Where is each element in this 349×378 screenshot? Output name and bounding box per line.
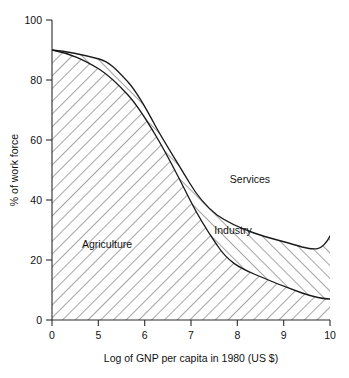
chart-figure: 100 80 60 40 20 0 0 5 6 7 8 9 10 Log of … xyxy=(0,0,349,378)
services-label: Services xyxy=(230,173,270,185)
y-tick-label-100: 100 xyxy=(24,14,42,26)
y-tick-label-80: 80 xyxy=(30,74,42,86)
industry-label: Industry xyxy=(214,224,252,236)
x-tick-label-10: 10 xyxy=(324,329,336,341)
y-tick-label-40: 40 xyxy=(30,194,42,206)
work-force-area-chart: 100 80 60 40 20 0 0 5 6 7 8 9 10 Log of … xyxy=(0,0,349,378)
x-tick-label-5: 5 xyxy=(95,329,101,341)
y-tick-label-0: 0 xyxy=(36,314,42,326)
y-tick-label-60: 60 xyxy=(30,134,42,146)
x-axis-title: Log of GNP per capita in 1980 (US $) xyxy=(104,352,278,364)
x-tick-label-8: 8 xyxy=(234,329,240,341)
y-tick-label-20: 20 xyxy=(30,254,42,266)
x-tick-label-6: 6 xyxy=(142,329,148,341)
x-tick-label-7: 7 xyxy=(188,329,194,341)
agriculture-label: Agriculture xyxy=(82,238,132,250)
y-axis-title: % of work force xyxy=(8,134,20,207)
x-tick-label-0: 0 xyxy=(49,329,55,341)
x-tick-label-9: 9 xyxy=(281,329,287,341)
